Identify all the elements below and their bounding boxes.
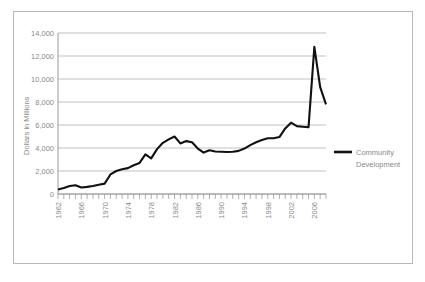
x-tick-label: 1970 [101, 202, 110, 219]
y-tick-label: 8,000 [35, 98, 54, 107]
y-axis-title: Dollars in Millions [22, 96, 31, 155]
x-tick-label: 1994 [240, 202, 249, 219]
y-tick-label: 12,000 [31, 52, 54, 61]
y-tick-labels-group: 14,000 12,000 10,000 8,000 6,000 4,000 2… [31, 29, 54, 199]
x-tick-label: 1974 [124, 202, 133, 219]
x-tick-label: 2002 [287, 202, 296, 219]
x-tick-labels-group: 1962196619701974197819821986199019941998… [54, 202, 319, 219]
y-tick-label: 2,000 [35, 167, 54, 176]
y-tick-label: 10,000 [31, 75, 54, 84]
x-tick-label: 1966 [77, 202, 86, 219]
chart-legend: Community Development [334, 148, 401, 169]
x-tick-label: 1962 [54, 202, 63, 219]
x-tick-marks-group [58, 194, 326, 199]
y-tick-label: 6,000 [35, 121, 54, 130]
legend-label-line2: Development [356, 160, 401, 169]
chart-plot-svg: Dollars in Millions 14,000 12,000 10,000… [0, 0, 425, 282]
y-tick-label: 0 [50, 190, 54, 199]
x-tick-label: 1978 [147, 202, 156, 219]
x-tick-label: 2006 [310, 202, 319, 219]
gridlines-group [58, 33, 326, 194]
x-tick-label: 1986 [194, 202, 203, 219]
y-tick-label: 14,000 [31, 29, 54, 38]
y-tick-label: 4,000 [35, 144, 54, 153]
x-tick-label: 1982 [171, 202, 180, 219]
legend-label-line1: Community [356, 148, 394, 157]
x-tick-label: 1998 [264, 202, 273, 219]
x-tick-label: 1990 [217, 202, 226, 219]
data-series-community-development [58, 47, 326, 190]
chart-root: Dollars in Millions 14,000 12,000 10,000… [0, 0, 425, 282]
